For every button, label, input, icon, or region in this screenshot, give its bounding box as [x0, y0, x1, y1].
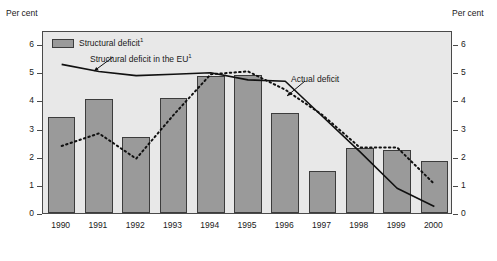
- y-tick-label-4-left: 4: [18, 95, 34, 105]
- y-tick-label-4-right: 4: [461, 95, 477, 105]
- footnote-marker: 1: [140, 37, 143, 43]
- y-tick-5-right: [453, 73, 458, 74]
- y-tick-label-3-right: 3: [461, 124, 477, 134]
- annotation-label-actual-deficit: Actual deficit: [291, 74, 339, 84]
- y-tick-label-5-right: 5: [461, 67, 477, 77]
- x-tick-label-1995: 1995: [228, 220, 265, 230]
- y-tick-label-3-left: 3: [18, 124, 34, 134]
- x-tick-label-1991: 1991: [79, 220, 116, 230]
- y-tick-label-1-left: 1: [18, 180, 34, 190]
- x-tick-label-1993: 1993: [154, 220, 191, 230]
- y-tick-label-1-right: 1: [461, 180, 477, 190]
- y-tick-label-0-left: 0: [18, 208, 34, 218]
- y-tick-label-2-left: 2: [18, 152, 34, 162]
- y-tick-label-6-right: 6: [461, 39, 477, 49]
- chart-canvas: Per cent Per cent 00112233445566 Structu…: [0, 0, 497, 261]
- legend-text: Structural deficit: [79, 38, 140, 48]
- y-tick-0-right: [453, 214, 458, 215]
- y-tick-label-5-left: 5: [18, 67, 34, 77]
- footnote-marker: 1: [188, 53, 191, 59]
- x-tick-label-1999: 1999: [377, 220, 414, 230]
- legend-swatch-structural-deficit: [52, 39, 74, 48]
- x-tick-label-1990: 1990: [42, 220, 79, 230]
- y-tick-3-right: [453, 130, 458, 131]
- line-actual-deficit: [62, 71, 435, 184]
- annotation-text: Structural deficit in the EU: [90, 54, 188, 64]
- x-tick-label-1996: 1996: [266, 220, 303, 230]
- y-tick-label-2-right: 2: [461, 152, 477, 162]
- y-axis-unit-right: Per cent: [452, 8, 484, 18]
- y-tick-0-left: [37, 214, 42, 215]
- x-tick-label-2000: 2000: [415, 220, 452, 230]
- y-tick-2-right: [453, 158, 458, 159]
- legend-label-structural-deficit: Structural deficit1: [79, 37, 143, 48]
- annotation-label-structural-deficit-eu: Structural deficit in the EU1: [90, 53, 192, 64]
- y-tick-1-right: [453, 186, 458, 187]
- y-axis-unit-left: Per cent: [6, 8, 38, 18]
- line-structural-deficit-eu: [62, 64, 435, 206]
- y-tick-6-right: [453, 45, 458, 46]
- x-tick-label-1994: 1994: [191, 220, 228, 230]
- y-tick-label-6-left: 6: [18, 39, 34, 49]
- y-tick-4-right: [453, 101, 458, 102]
- x-tick-label-1997: 1997: [303, 220, 340, 230]
- x-tick-label-1998: 1998: [340, 220, 377, 230]
- y-tick-label-0-right: 0: [461, 208, 477, 218]
- x-tick-label-1992: 1992: [117, 220, 154, 230]
